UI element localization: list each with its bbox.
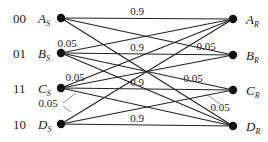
- probability-label: 0.05: [210, 101, 230, 113]
- codeword-CS: 11: [13, 81, 26, 96]
- leader-line: [63, 93, 76, 103]
- probability-label: 0.05: [57, 37, 77, 49]
- node-label-AR: AR: [245, 12, 259, 29]
- probability-label: 0.9: [130, 76, 144, 88]
- edge-AS-AR: [61, 18, 233, 19]
- codeword-BS: 01: [13, 46, 26, 61]
- node-label-BR: BR: [246, 48, 259, 65]
- channel-diagram: 0.90.90.90.90.050.050.050.050.050.0500AS…: [0, 0, 268, 142]
- probability-label: 0.9: [130, 112, 144, 124]
- receiver-node-CR: [229, 86, 237, 94]
- probability-label: 0.9: [130, 41, 144, 53]
- sender-node-CS: [57, 84, 65, 92]
- receiver-node-DR: [229, 122, 237, 130]
- receiver-node-AR: [229, 15, 237, 23]
- probability-label: 0.9: [130, 5, 144, 17]
- sender-node-DS: [57, 120, 65, 128]
- probability-label: 0.05: [196, 40, 216, 52]
- node-label-BS: BS: [38, 46, 50, 63]
- sender-node-BS: [57, 49, 65, 57]
- codeword-AS: 00: [13, 11, 26, 26]
- diagram-svg: 0.90.90.90.90.050.050.050.050.050.0500AS…: [0, 0, 268, 142]
- node-label-DR: DR: [245, 119, 260, 136]
- leader-line: [63, 106, 71, 112]
- node-label-CS: CS: [38, 81, 51, 98]
- edge-DS-DR: [61, 124, 233, 126]
- receiver-node-BR: [229, 51, 237, 59]
- probability-label: 0.05: [38, 97, 58, 109]
- probability-label: 0.05: [65, 71, 85, 83]
- probability-label: 0.05: [183, 72, 203, 84]
- codeword-DS: 10: [13, 117, 26, 132]
- node-label-DS: DS: [37, 117, 51, 134]
- node-label-AS: AS: [37, 11, 50, 28]
- sender-node-AS: [57, 14, 65, 22]
- node-label-CR: CR: [246, 83, 260, 100]
